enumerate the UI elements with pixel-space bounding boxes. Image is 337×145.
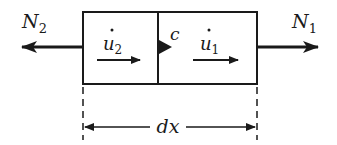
diagram-canvas: c N2 N1 u2 u1 dx — [0, 0, 337, 145]
force-label-left: N2 — [21, 10, 47, 36]
dimension-label: dx — [157, 115, 180, 137]
velocity-label-right: u1 — [200, 33, 219, 57]
velocity-dot-right — [208, 29, 211, 32]
force-label-right: N1 — [291, 10, 317, 36]
velocity-dot-left — [111, 29, 114, 32]
dimension-dx: dx — [83, 87, 257, 140]
velocity-label-left: u2 — [103, 33, 122, 57]
interface-label: c — [170, 24, 180, 44]
